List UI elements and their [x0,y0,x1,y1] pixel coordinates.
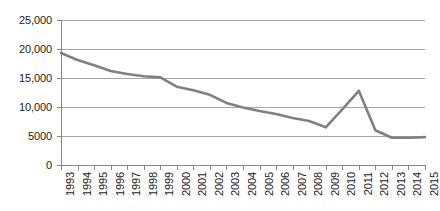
series-line-1 [61,53,425,138]
